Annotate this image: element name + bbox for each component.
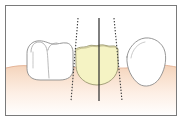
tooth-center <box>76 45 118 85</box>
dental-diagram-figure: Tooth width mesiodistal measurement diag… <box>0 0 182 121</box>
tooth-left <box>27 41 73 80</box>
tooth-left-crown <box>27 41 73 80</box>
diagram-canvas <box>0 0 182 121</box>
tooth-center-crown <box>76 45 118 85</box>
